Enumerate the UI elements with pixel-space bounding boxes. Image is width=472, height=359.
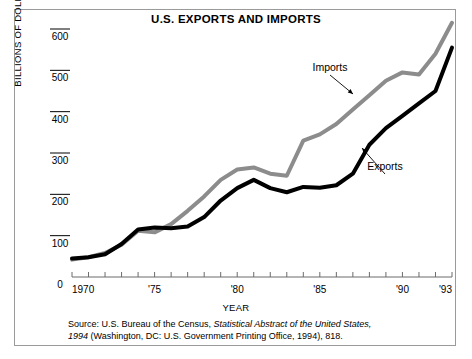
figure-container: U.S. EXPORTS AND IMPORTS BILLIONS OF DOL… [0, 0, 472, 359]
y-tick-label: 0 [57, 279, 63, 290]
y-tick-label: 500 [52, 72, 69, 83]
data-series-group [72, 23, 452, 260]
x-axis: 1970'75'80'85'90'93 [72, 272, 452, 295]
x-tick-label: 1970 [72, 284, 95, 295]
x-tick-label: '93 [439, 284, 452, 295]
x-tick-label: '90 [396, 284, 409, 295]
y-axis-ticks: 0100200300400500600 [50, 29, 70, 290]
source-note: Source: U.S. Bureau of the Census, Stati… [68, 318, 408, 342]
x-tick-label: '85 [313, 284, 326, 295]
series-line-exports [72, 48, 452, 259]
x-axis-title: YEAR [0, 302, 472, 313]
annotation-label-exports: Exports [367, 160, 403, 172]
x-tick-label: '80 [231, 284, 244, 295]
y-tick-label: 100 [52, 238, 69, 249]
source-suffix: (Washington, DC: U.S. Government Printin… [88, 331, 343, 341]
source-title-italic: Statistical Abstract of the United State… [214, 319, 372, 329]
y-tick-label: 300 [52, 155, 69, 166]
source-prefix: Source: U.S. Bureau of the Census, [68, 319, 214, 329]
y-tick-label: 200 [52, 196, 69, 207]
series-line-imports [72, 23, 452, 260]
source-year-italic: 1994 [68, 331, 88, 341]
y-tick-label: 600 [52, 31, 69, 42]
y-tick-label: 400 [52, 114, 69, 125]
annotation-label-imports: Imports [312, 61, 347, 73]
x-tick-label: '75 [148, 284, 161, 295]
